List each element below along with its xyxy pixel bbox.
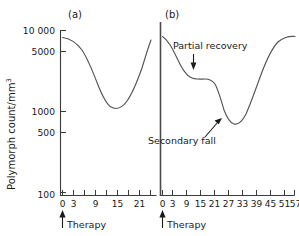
panel-a-curve [63, 38, 152, 109]
panel-b-xtick-33: 33 [237, 199, 248, 209]
therapy-label-b: Therapy [166, 219, 206, 230]
panel-a-x-ticks [63, 190, 151, 196]
panel-b-xtick-0: 0 [160, 199, 166, 209]
chart-svg: Polymorph count/mm3 10 000 5000 1000 500… [0, 0, 299, 236]
y-tick-label-500: 500 [37, 127, 55, 138]
panel-b-xtick-57: 57 [290, 199, 299, 209]
annotation-secondary-fall: Secondary fall [148, 118, 222, 146]
panel-b-xtick-51: 51 [279, 199, 290, 209]
panel-b-xtick-15: 15 [195, 199, 206, 209]
panel-b-xtick-39: 39 [251, 199, 263, 209]
y-axis [61, 31, 67, 196]
panel-b-label: (b) [165, 9, 179, 20]
y-axis-tick-labels: 10 000 5000 1000 500 100 [23, 25, 55, 200]
y-axis-title-text: Polymorph count/mm [6, 83, 17, 190]
panel-b-x-tick-labels: 0 3 9 15 21 27 33 39 45 51 57 [160, 199, 299, 209]
panel-b: (b) 0 3 9 15 21 27 33 39 45 [148, 9, 299, 230]
therapy-arrow-a [59, 210, 65, 228]
chart-figure: Polymorph count/mm3 10 000 5000 1000 500… [0, 0, 299, 236]
y-axis-title: Polymorph count/mm3 [5, 78, 17, 190]
y-tick-label-1000: 1000 [32, 106, 56, 117]
therapy-arrow-b [159, 210, 165, 228]
partial-recovery-arrow-icon [191, 63, 197, 71]
panel-a-xtick-9: 9 [93, 199, 99, 209]
svg-text:Polymorph count/mm3: Polymorph count/mm3 [5, 78, 17, 190]
panel-a-label: (a) [68, 9, 82, 20]
panel-a-xtick-21: 21 [134, 199, 145, 209]
y-tick-label-100: 100 [37, 189, 55, 200]
annotation-partial-recovery: Partial recovery [173, 40, 248, 70]
panel-a-x-tick-labels: 0 3 9 15 21 [60, 199, 146, 209]
y-tick-label-5000: 5000 [32, 46, 56, 57]
panel-a-xtick-0: 0 [60, 199, 66, 209]
panel-a-xtick-3: 3 [71, 199, 77, 209]
panel-b-xtick-27: 27 [223, 199, 234, 209]
panel-b-x-ticks [163, 190, 295, 196]
panel-a: (a) 0 3 9 15 21 The [59, 9, 156, 230]
panel-b-xtick-9: 9 [184, 199, 190, 209]
therapy-label-a: Therapy [66, 219, 106, 230]
secondary-fall-arrow-icon [215, 118, 223, 124]
panel-a-xtick-15: 15 [112, 199, 123, 209]
panel-b-xtick-3: 3 [170, 199, 176, 209]
panel-b-xtick-21: 21 [209, 199, 220, 209]
y-axis-title-superscript: 3 [5, 78, 13, 82]
panel-b-xtick-45: 45 [265, 199, 276, 209]
y-tick-label-10000: 10 000 [23, 25, 55, 36]
annotation-partial-recovery-label: Partial recovery [173, 40, 248, 51]
